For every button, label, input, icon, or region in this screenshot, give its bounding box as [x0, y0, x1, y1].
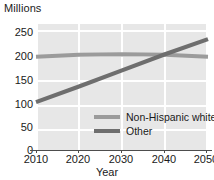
legend-item-label: Non-Hispanic white: [126, 111, 214, 123]
y-tick-label: 250: [1, 26, 33, 38]
x-axis-title: Year: [0, 166, 214, 179]
x-tick-label: 2010: [16, 153, 56, 165]
series-line-other: [36, 39, 208, 102]
line-chart: Millions 250 200 150 100 50 0 2010 2020 …: [0, 0, 214, 180]
y-tick-label: 50: [1, 121, 33, 133]
y-tick-label: 150: [1, 74, 33, 86]
legend: Non-Hispanic white Other: [94, 110, 212, 138]
legend-item: Non-Hispanic white: [94, 110, 212, 124]
x-tick-label: 2030: [101, 153, 141, 165]
x-tick-label: 2040: [144, 153, 184, 165]
x-tick-label: 2020: [58, 153, 98, 165]
legend-swatch-icon: [94, 115, 120, 119]
x-tick-label: 2050: [186, 153, 214, 165]
legend-item-label: Other: [126, 125, 152, 137]
y-tick-label: 200: [1, 50, 33, 62]
legend-swatch-icon: [94, 129, 120, 133]
y-tick-label: 100: [1, 98, 33, 110]
legend-item: Other: [94, 124, 212, 138]
series-line-non-hispanic-white: [36, 54, 208, 57]
